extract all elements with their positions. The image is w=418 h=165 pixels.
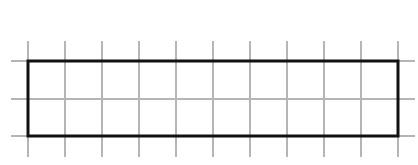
grid-diagram <box>0 0 418 165</box>
